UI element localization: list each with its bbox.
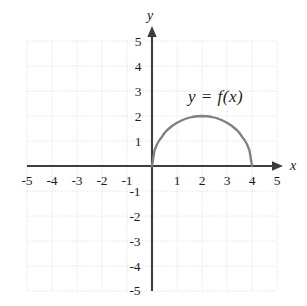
x-tick-label: -3 <box>67 174 87 188</box>
x-axis-arrowhead <box>272 161 283 170</box>
x-tick-label: -4 <box>42 174 62 188</box>
y-tick-label: 4 <box>130 60 146 74</box>
x-axis-label: x <box>290 159 296 173</box>
x-tick-label: 5 <box>268 174 286 188</box>
x-tick-label: 3 <box>218 174 236 188</box>
y-axis-label: y <box>147 9 153 23</box>
y-tick-label: -2 <box>124 210 146 224</box>
y-tick-label: 5 <box>130 35 146 49</box>
y-tick-label: -4 <box>124 260 146 274</box>
y-tick-label: -5 <box>124 284 146 298</box>
y-tick-label: 2 <box>130 110 146 124</box>
y-tick-label: 3 <box>130 85 146 99</box>
y-tick-label: -1 <box>124 185 146 199</box>
graph-figure: -5 -4 -3 -2 -1 1 2 3 4 5 5 4 3 2 1 -1 -2… <box>0 0 307 306</box>
y-tick-label: 1 <box>130 135 146 149</box>
y-axis-arrowhead <box>147 26 156 37</box>
coordinate-plane-svg <box>0 0 307 306</box>
x-tick-label: 2 <box>193 174 211 188</box>
x-tick-label: 4 <box>243 174 261 188</box>
y-tick-label: -3 <box>124 235 146 249</box>
x-tick-label: -2 <box>92 174 112 188</box>
x-tick-label: -5 <box>17 174 37 188</box>
x-tick-label: 1 <box>168 174 186 188</box>
function-annotation: y = f(x) <box>188 88 243 105</box>
x-axis <box>27 161 283 170</box>
